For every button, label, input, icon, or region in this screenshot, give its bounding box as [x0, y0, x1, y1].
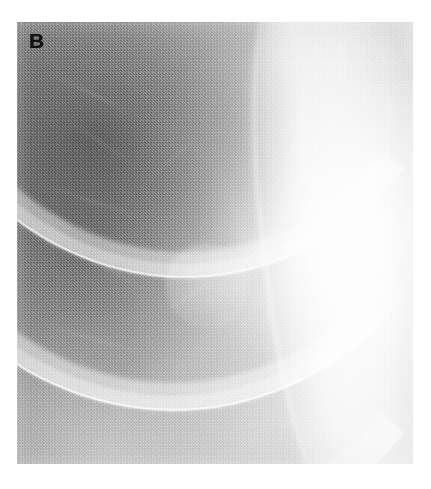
- plate-vignette: [17, 22, 413, 464]
- radiograph-plate: B: [17, 22, 413, 464]
- panel-label: B: [29, 30, 44, 51]
- figure-root: B: [0, 0, 431, 489]
